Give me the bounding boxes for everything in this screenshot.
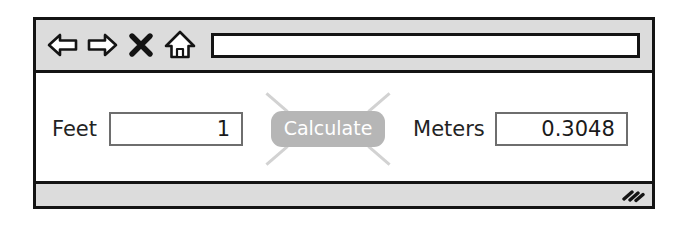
sparkle-ray-bottom-left [265,145,288,166]
browser-window: Feet 1 Calculate Meters 0.3048 [33,17,655,209]
address-bar[interactable] [211,33,640,58]
page-content: Feet 1 Calculate Meters 0.3048 [36,73,652,184]
home-icon[interactable] [163,28,197,62]
feet-to-meters-converter: Feet 1 Calculate Meters 0.3048 [36,73,652,184]
calculate-button[interactable]: Calculate [271,111,386,147]
back-icon[interactable] [46,28,80,62]
feet-input[interactable]: 1 [109,112,243,146]
browser-toolbar [36,20,652,73]
calculate-button-area: Calculate [257,79,399,179]
meters-label: Meters [413,117,485,141]
stop-icon[interactable] [124,28,158,62]
meters-input[interactable]: 0.3048 [495,112,628,146]
resize-grip-icon[interactable] [621,186,645,203]
sparkle-ray-top-left [265,92,288,113]
sparkle-ray-bottom-right [367,145,390,166]
forward-icon[interactable] [85,28,119,62]
status-bar [36,181,652,206]
sparkle-ray-top-right [367,92,390,113]
feet-label: Feet [52,117,97,141]
